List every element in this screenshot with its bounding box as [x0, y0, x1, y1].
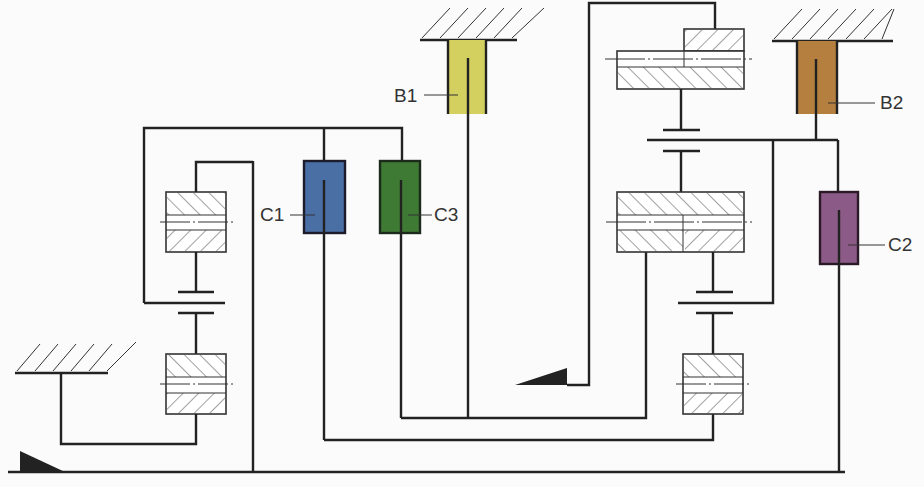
- ground-b1-icon: [420, 8, 544, 40]
- transmission-diagram: B1 C1 C3 B2 C2: [0, 0, 924, 487]
- brake-b2: [796, 41, 875, 140]
- input-arrow-icon: [515, 368, 567, 385]
- ground-left-icon: [15, 342, 136, 373]
- label-b1: B1: [394, 86, 417, 105]
- label-c3: C3: [434, 205, 458, 224]
- label-c2: C2: [888, 235, 912, 254]
- clutch-c2: [820, 140, 885, 472]
- schematic-canvas: [0, 0, 924, 487]
- label-b2: B2: [880, 93, 903, 112]
- output-shaft: [8, 451, 845, 472]
- clutch-c3: [380, 161, 646, 418]
- brake-b1: [424, 40, 486, 418]
- left-gearset: [61, 128, 402, 444]
- output-arrow-icon: [20, 451, 65, 472]
- ground-b2-icon: [772, 9, 894, 41]
- label-c1: C1: [260, 205, 284, 224]
- right-gearset: [515, 3, 838, 414]
